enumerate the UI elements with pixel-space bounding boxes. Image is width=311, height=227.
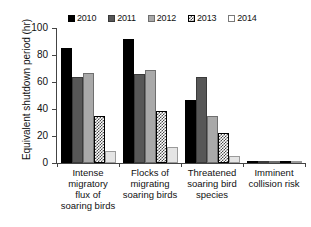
- y-tick-mark: [52, 82, 56, 83]
- y-tick-mark: [52, 109, 56, 110]
- bar-2013[interactable]: [218, 133, 229, 163]
- bar-2010[interactable]: [61, 48, 72, 163]
- y-tick-label: 0: [4, 158, 48, 168]
- bar-group: [185, 28, 240, 163]
- bar-2011[interactable]: [72, 77, 83, 163]
- bar-2010[interactable]: [185, 100, 196, 163]
- y-axis-title: Equivalent shutdown period (hr): [21, 10, 32, 170]
- bar-2013[interactable]: [94, 116, 105, 163]
- legend-item-2014[interactable]: 2014: [228, 14, 256, 23]
- y-tick-mark: [52, 55, 56, 56]
- bar-2014[interactable]: [229, 156, 240, 163]
- legend-label-2010: 2010: [77, 14, 96, 23]
- y-tick-mark: [52, 136, 56, 137]
- legend-swatch-icon-2010: [68, 15, 75, 22]
- bar-2014[interactable]: [291, 161, 302, 163]
- y-tick-label: 60: [4, 77, 48, 87]
- x-category-label-line: collision risk: [235, 178, 311, 189]
- bar-2012[interactable]: [83, 73, 94, 163]
- bar-2014[interactable]: [105, 151, 116, 163]
- y-tick-label: 100: [4, 23, 48, 33]
- x-category-label-line: Imminent: [235, 167, 311, 178]
- bar-2010[interactable]: [123, 39, 134, 163]
- legend-label-2014: 2014: [237, 14, 256, 23]
- legend-item-2010[interactable]: 2010: [68, 14, 96, 23]
- bar-group: [123, 28, 178, 163]
- legend-label-2012: 2012: [157, 14, 176, 23]
- bar-2012[interactable]: [145, 70, 156, 163]
- legend-label-2013: 2013: [197, 14, 216, 23]
- bar-2011[interactable]: [134, 74, 145, 163]
- y-tick-label: 40: [4, 104, 48, 114]
- bar-2010[interactable]: [247, 161, 258, 163]
- legend-item-2013[interactable]: 2013: [188, 14, 216, 23]
- bar-2012[interactable]: [269, 161, 280, 163]
- y-tick-label: 20: [4, 131, 48, 141]
- y-tick-mark: [52, 163, 56, 164]
- bar-group: [247, 28, 302, 163]
- legend-swatch-icon-2012: [148, 15, 155, 22]
- bar-2012[interactable]: [207, 116, 218, 163]
- legend-item-2011[interactable]: 2011: [108, 14, 136, 23]
- x-category-label-line: soaring birds: [49, 200, 127, 211]
- plot-area: [57, 28, 305, 163]
- legend-swatch-icon-2011: [108, 15, 115, 22]
- legend-item-2012[interactable]: 2012: [148, 14, 176, 23]
- bar-2011[interactable]: [196, 77, 207, 163]
- bar-2013[interactable]: [280, 161, 291, 163]
- y-tick-mark: [52, 28, 56, 29]
- bar-2011[interactable]: [258, 161, 269, 163]
- y-tick-label: 80: [4, 50, 48, 60]
- bar-chart: 2010 2011 2012 2013 2014 Equivalent shut…: [0, 0, 311, 227]
- bar-2013[interactable]: [156, 111, 167, 163]
- x-category-label: Imminentcollision risk: [235, 167, 311, 189]
- legend-swatch-icon-2013: [188, 15, 195, 22]
- bar-2014[interactable]: [167, 147, 178, 163]
- legend-label-2011: 2011: [117, 14, 136, 23]
- chart-legend: 2010 2011 2012 2013 2014: [68, 11, 298, 25]
- legend-swatch-icon-2014: [228, 15, 235, 22]
- x-category-label-line: species: [173, 189, 251, 200]
- bar-group: [61, 28, 116, 163]
